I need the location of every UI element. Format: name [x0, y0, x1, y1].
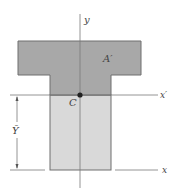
lower-web-area [50, 95, 111, 170]
y-axis-label: y [83, 14, 90, 25]
centroid-label: C [69, 97, 77, 108]
upper-area-a-prime [18, 41, 141, 95]
arrow-down-icon [16, 164, 19, 169]
x-axis-label: x [162, 165, 167, 175]
arrow-up-icon [16, 96, 19, 101]
centroid-dot [77, 92, 82, 97]
tee-section-diagram: y x′ x A′ C Ȳ [0, 0, 175, 192]
x-prime-label: x′ [160, 90, 167, 100]
area-label: A′ [102, 53, 113, 64]
